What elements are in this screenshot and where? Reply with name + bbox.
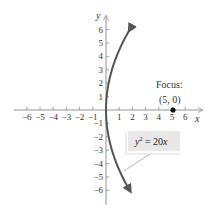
y-tick-label: −2 bbox=[93, 132, 103, 142]
x-tick-label: −3 bbox=[62, 112, 72, 122]
y-tick-label: 6 bbox=[99, 25, 104, 35]
x-tick-label: 1 bbox=[117, 112, 122, 122]
equation-callout: y2 = 20x bbox=[124, 131, 180, 171]
y-tick-label: 3 bbox=[99, 65, 104, 75]
focus-point bbox=[170, 107, 175, 112]
y-axis-label: y bbox=[95, 10, 101, 21]
y-tick-label: 5 bbox=[99, 38, 104, 48]
x-axis-label: x bbox=[194, 113, 200, 124]
x-tick-label: 4 bbox=[157, 112, 162, 122]
x-tick-label: 3 bbox=[143, 112, 148, 122]
x-tick-label: −2 bbox=[75, 112, 85, 122]
parabola-chart: −6−5−4−3−2−1123456 654321−1−2−3−4−5−6 x … bbox=[0, 0, 215, 212]
x-tick-label: −4 bbox=[48, 112, 58, 122]
callout-pointer bbox=[124, 154, 150, 171]
y-tick-label: −4 bbox=[93, 159, 103, 169]
y-tick-label: −1 bbox=[93, 118, 103, 128]
focus-coordinates: (5, 0) bbox=[159, 94, 181, 106]
y-tick-label: −3 bbox=[93, 145, 103, 155]
focus-title: Focus: bbox=[156, 79, 183, 90]
x-tick-label: −6 bbox=[22, 112, 32, 122]
y-tick-label: 4 bbox=[99, 51, 104, 61]
equation-label: y2 = 20x bbox=[134, 136, 168, 147]
x-tick-label: 2 bbox=[130, 112, 135, 122]
y-tick-label: 1 bbox=[99, 92, 104, 102]
y-tick-label: −6 bbox=[93, 185, 103, 195]
y-tick-label: 2 bbox=[99, 78, 104, 88]
x-tick-label: 6 bbox=[183, 112, 188, 122]
x-tick-label: 5 bbox=[170, 112, 175, 122]
x-ticks: −6−5−4−3−2−1123456 bbox=[22, 107, 188, 122]
x-tick-label: −5 bbox=[35, 112, 45, 122]
y-tick-label: −5 bbox=[93, 172, 103, 182]
